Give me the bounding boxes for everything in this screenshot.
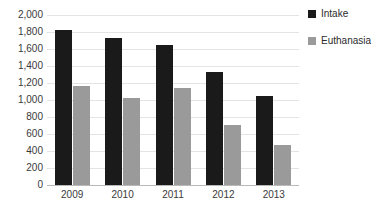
bar-group xyxy=(156,15,191,185)
bar-euthanasia-2013[interactable] xyxy=(274,145,291,185)
y-axis-tick-label: 400 xyxy=(0,146,43,156)
y-axis-tick-label: 1,600 xyxy=(0,44,43,54)
legend-item-euthanasia[interactable]: Euthanasia xyxy=(308,35,385,46)
bar-intake-2010[interactable] xyxy=(105,38,122,185)
x-axis-tick-label: 2010 xyxy=(100,189,146,200)
y-axis-tick-label: 1,200 xyxy=(0,78,43,88)
y-axis-tick-label: 800 xyxy=(0,112,43,122)
bar-intake-2009[interactable] xyxy=(55,30,72,185)
y-axis-tick-label: 1,800 xyxy=(0,27,43,37)
y-axis-tick-label: 1,400 xyxy=(0,61,43,71)
y-axis-tick-label: 1,000 xyxy=(0,95,43,105)
y-axis-tick-label: 600 xyxy=(0,129,43,139)
y-axis-tick-label: 0 xyxy=(0,180,43,190)
bar-intake-2011[interactable] xyxy=(156,45,173,185)
bar-chart: . 2,0001,8001,6001,4001,2001,00080060040… xyxy=(0,0,385,209)
bar-euthanasia-2011[interactable] xyxy=(174,88,191,185)
axis-baseline xyxy=(47,185,299,186)
x-axis-tick-label: 2013 xyxy=(251,189,297,200)
x-axis-tick-label: 2011 xyxy=(150,189,196,200)
legend: IntakeEuthanasia xyxy=(308,8,385,62)
bar-group xyxy=(105,15,140,185)
legend-label: Euthanasia xyxy=(321,35,371,46)
y-axis-tick-label: 2,000 xyxy=(0,10,43,20)
legend-item-intake[interactable]: Intake xyxy=(308,8,385,19)
legend-swatch-icon xyxy=(308,37,316,45)
cropped-title-remnant: . xyxy=(95,0,107,3)
bar-group xyxy=(256,15,291,185)
bar-euthanasia-2012[interactable] xyxy=(224,125,241,185)
bar-euthanasia-2009[interactable] xyxy=(73,86,90,185)
bar-group xyxy=(55,15,90,185)
x-axis-tick-label: 2012 xyxy=(200,189,246,200)
bar-euthanasia-2010[interactable] xyxy=(123,98,140,185)
y-axis-labels: 2,0001,8001,6001,4001,2001,0008006004002… xyxy=(0,0,43,209)
legend-label: Intake xyxy=(321,8,348,19)
bar-intake-2013[interactable] xyxy=(256,96,273,185)
legend-swatch-icon xyxy=(308,10,316,18)
plot-area xyxy=(47,15,299,185)
bar-intake-2012[interactable] xyxy=(206,72,223,185)
y-axis-tick-label: 200 xyxy=(0,163,43,173)
x-axis-tick-label: 2009 xyxy=(49,189,95,200)
bar-group xyxy=(206,15,241,185)
